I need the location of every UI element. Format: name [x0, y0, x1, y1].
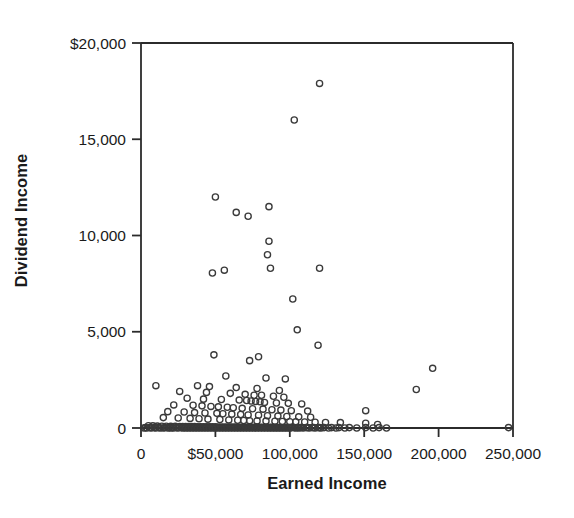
data-point	[224, 404, 230, 410]
data-point	[269, 407, 275, 413]
scatter-plot-figure: 0$50,000100,000150,000200,000250,000 05,…	[0, 0, 574, 518]
data-point	[267, 265, 273, 271]
data-point	[203, 389, 209, 395]
data-point	[214, 410, 220, 416]
y-tick-label: 10,000	[79, 227, 127, 244]
y-tick-label: 0	[117, 420, 126, 437]
data-point	[413, 386, 419, 392]
data-point	[187, 415, 193, 421]
data-point	[235, 417, 241, 423]
x-axis-tick-labels: 0$50,000100,000150,000200,000250,000	[137, 445, 542, 462]
y-tick-label: 5,000	[87, 323, 126, 340]
data-point	[194, 383, 200, 389]
data-point	[227, 390, 233, 396]
data-point	[153, 383, 159, 389]
data-point	[245, 213, 251, 219]
data-point	[236, 397, 242, 403]
data-point	[184, 395, 190, 401]
y-tick-label: $20,000	[70, 35, 126, 52]
data-point	[191, 410, 197, 416]
data-point	[258, 392, 264, 398]
y-tick-label: 15,000	[79, 131, 127, 148]
data-point	[291, 117, 297, 123]
data-point	[247, 358, 253, 364]
data-point	[230, 405, 236, 411]
data-point	[209, 270, 215, 276]
data-point	[196, 416, 202, 422]
data-point	[260, 406, 266, 412]
data-point	[223, 373, 229, 379]
data-point	[160, 415, 166, 421]
data-point	[241, 417, 247, 423]
data-point	[316, 80, 322, 86]
data-point	[218, 396, 224, 402]
axis-frame	[141, 43, 513, 428]
data-point	[165, 409, 171, 415]
data-point	[272, 418, 278, 424]
data-point	[208, 403, 214, 409]
data-point	[233, 384, 239, 390]
data-point	[242, 391, 248, 397]
y-axis-ticks	[132, 43, 141, 428]
data-point	[200, 396, 206, 402]
data-point	[247, 418, 253, 424]
data-point	[171, 402, 177, 408]
data-point	[290, 296, 296, 302]
data-point	[273, 400, 279, 406]
data-point	[226, 417, 232, 423]
data-point	[278, 407, 284, 413]
data-point	[266, 238, 272, 244]
data-point	[299, 401, 305, 407]
data-point	[233, 209, 239, 215]
data-point	[281, 394, 287, 400]
data-point	[430, 365, 436, 371]
data-point	[282, 376, 288, 382]
data-point	[261, 399, 267, 405]
data-point	[288, 408, 294, 414]
data-point	[294, 327, 300, 333]
data-point	[264, 252, 270, 258]
data-point	[279, 418, 285, 424]
data-point	[190, 402, 196, 408]
data-point	[211, 352, 217, 358]
data-point	[221, 267, 227, 273]
x-tick-label: 200,000	[411, 445, 467, 462]
plot-canvas: 0$50,000100,000150,000200,000250,000 05,…	[0, 0, 574, 518]
data-point	[363, 408, 369, 414]
data-point	[177, 388, 183, 394]
x-tick-label: $50,000	[187, 445, 243, 462]
y-axis-tick-labels: 05,00010,00015,000$20,000	[70, 35, 126, 437]
data-point	[181, 409, 187, 415]
data-point	[212, 194, 218, 200]
data-point	[305, 408, 311, 414]
x-tick-label: 250,000	[485, 445, 541, 462]
data-point	[254, 385, 260, 391]
data-point	[276, 387, 282, 393]
x-tick-label: 100,000	[262, 445, 318, 462]
data-point	[199, 403, 205, 409]
data-point	[205, 416, 211, 422]
data-point	[215, 404, 221, 410]
x-tick-label: 0	[137, 445, 146, 462]
x-tick-label: 150,000	[336, 445, 392, 462]
data-point	[316, 265, 322, 271]
data-point	[315, 342, 321, 348]
data-point	[217, 416, 223, 422]
data-point	[239, 405, 245, 411]
data-point	[175, 415, 181, 421]
data-point	[263, 375, 269, 381]
data-point	[255, 354, 261, 360]
data-point	[285, 400, 291, 406]
data-point	[202, 410, 208, 416]
data-point	[270, 393, 276, 399]
data-point	[266, 204, 272, 210]
data-point	[250, 406, 256, 412]
data-point-series	[141, 80, 512, 431]
